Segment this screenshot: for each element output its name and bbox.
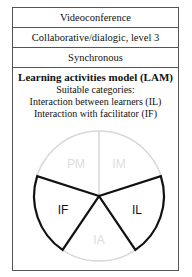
pie-label-pm: PM [67,157,85,171]
lam-pie-chart: PM IM IL IA IF [0,0,192,277]
pie-label-il: IL [132,203,142,217]
pie-label-im: IM [112,157,125,171]
pie-label-ia: IA [93,233,104,247]
pie-label-if: IF [58,203,69,217]
